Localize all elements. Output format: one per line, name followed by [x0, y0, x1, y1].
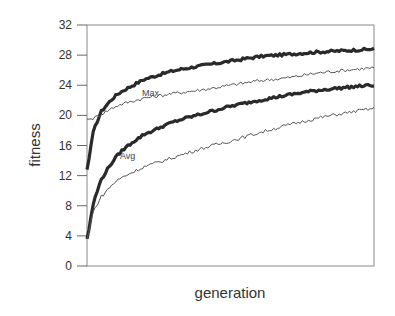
- y-tick-label: 4: [65, 229, 72, 243]
- y-tick-label: 8: [65, 199, 72, 213]
- x-axis-label: generation: [195, 284, 266, 301]
- max-annotation: Max: [142, 88, 160, 98]
- y-tick-label: 24: [59, 78, 73, 92]
- y-tick-label: 32: [59, 18, 73, 32]
- series-line-avg-thick: [87, 85, 374, 239]
- y-tick-label: 0: [65, 259, 72, 273]
- y-axis-label: fitness: [26, 123, 43, 166]
- y-tick-label: 28: [59, 48, 73, 62]
- y-tick-label: 16: [59, 139, 73, 153]
- avg-annotation: Avg: [120, 151, 135, 161]
- series-lines: [87, 48, 374, 239]
- y-tick-label: 12: [59, 169, 73, 183]
- y-axis-ticks: 048121620242832: [59, 18, 87, 273]
- series-line-max-thin: [87, 67, 374, 120]
- fitness-chart: 048121620242832 Max Avg fitness generati…: [0, 0, 395, 316]
- series-line-avg-thin: [87, 107, 374, 239]
- y-tick-label: 20: [59, 108, 73, 122]
